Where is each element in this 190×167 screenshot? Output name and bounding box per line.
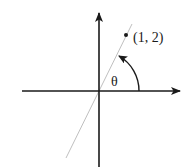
angle-arc-arrow-icon [119,56,139,91]
coordinate-diagram: (1, 2) θ [0,0,190,167]
angle-label: θ [111,74,118,89]
point-marker [124,33,128,37]
point-label: (1, 2) [133,30,164,46]
